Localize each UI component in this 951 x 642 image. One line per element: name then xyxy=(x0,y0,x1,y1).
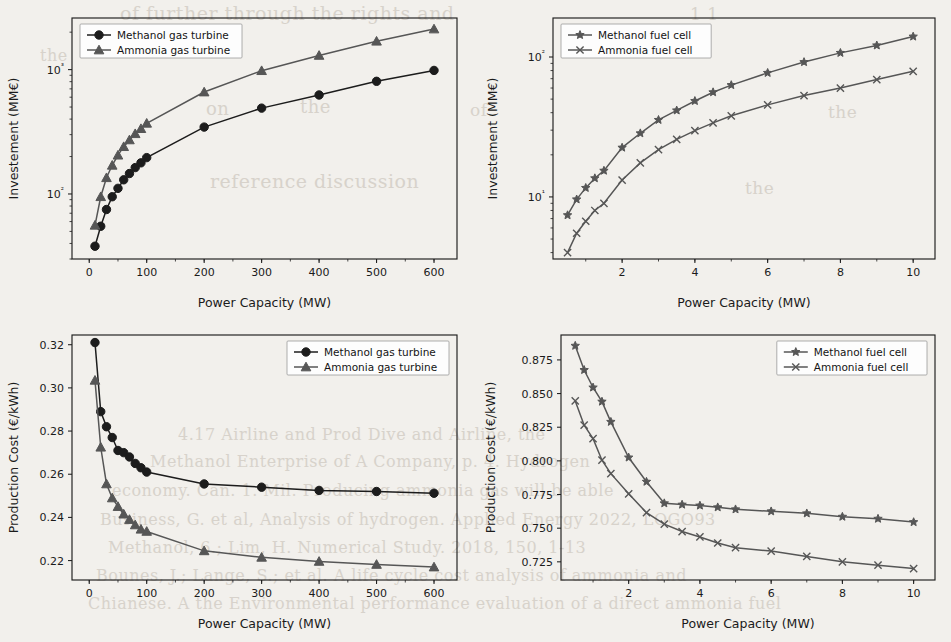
y-tick-label: 0.725 xyxy=(522,556,554,569)
y-tick-label: 0.28 xyxy=(40,425,65,438)
x-tick-label: 400 xyxy=(309,587,330,600)
legend-entry-label: Methanol fuel cell xyxy=(598,29,691,41)
chart-legend[interactable]: Methanol fuel cellAmmonia fuel cell xyxy=(777,341,927,375)
y-tick-label: 0.850 xyxy=(522,388,554,401)
x-tick-label: 10 xyxy=(907,587,921,600)
y-axis-label: Production Cost (€/kWh) xyxy=(483,382,498,534)
chart-investment-fuel-cell: 24681010¹10²Power Capacity (MW)Investeme… xyxy=(475,0,951,321)
y-tick-label: 10² xyxy=(528,49,545,64)
x-tick-label: 4 xyxy=(696,587,703,600)
x-tick-label: 6 xyxy=(768,587,775,600)
x-tick-label: 400 xyxy=(309,266,330,279)
x-tick-label: 0 xyxy=(86,266,93,279)
x-tick-label: 8 xyxy=(839,587,846,600)
y-tick-label: 10¹ xyxy=(528,189,545,204)
x-tick-label: 6 xyxy=(764,266,771,279)
x-tick-label: 0 xyxy=(86,587,93,600)
x-tick-label: 100 xyxy=(136,587,157,600)
x-tick-label: 600 xyxy=(424,587,445,600)
y-axis-label: Production Cost (€/kWh) xyxy=(6,382,21,534)
x-tick-label: 2 xyxy=(625,587,632,600)
series-methanol-gas-turbine xyxy=(91,66,438,250)
x-axis-label: Power Capacity (MW) xyxy=(677,295,810,310)
x-tick-label: 300 xyxy=(251,266,272,279)
legend-entry-label: Ammonia fuel cell xyxy=(814,361,909,373)
x-tick-label: 500 xyxy=(366,587,387,600)
x-tick-label: 200 xyxy=(194,266,215,279)
chart-legend[interactable]: Methanol gas turbineAmmonia gas turbine xyxy=(287,341,449,375)
y-tick-label: 10³ xyxy=(47,62,64,77)
x-axis-label: Power Capacity (MW) xyxy=(198,295,331,310)
x-tick-label: 2 xyxy=(619,266,626,279)
y-axis-label: Investement (MM€) xyxy=(6,78,21,200)
legend-entry-label: Ammonia gas turbine xyxy=(117,44,230,56)
y-tick-label: 0.26 xyxy=(40,468,65,481)
y-tick-label: 0.800 xyxy=(522,455,554,468)
x-tick-label: 200 xyxy=(194,587,215,600)
y-tick-label: 10² xyxy=(47,186,64,201)
panel-production-cost-gas-turbine: 01002003004005006000.220.240.260.280.300… xyxy=(0,321,475,642)
legend-entry-label: Methanol gas turbine xyxy=(324,346,436,358)
y-axis-label: Investement (MM€) xyxy=(485,78,500,200)
panel-production-cost-fuel-cell: 2468100.7250.7500.7750.8000.8250.8500.87… xyxy=(475,321,951,642)
y-tick-label: 0.750 xyxy=(522,522,554,535)
x-axis-label: Power Capacity (MW) xyxy=(681,616,814,631)
x-tick-label: 100 xyxy=(136,266,157,279)
chart-legend[interactable]: Methanol fuel cellAmmonia fuel cell xyxy=(561,24,711,58)
legend-entry-label: Methanol gas turbine xyxy=(117,29,229,41)
y-tick-label: 0.875 xyxy=(522,354,554,367)
panel-investment-gas-turbine: 010020030040050060010²10³Power Capacity … xyxy=(0,0,475,321)
x-tick-label: 4 xyxy=(691,266,698,279)
series-ammonia-fuel-cell xyxy=(564,68,917,256)
legend-entry-label: Methanol fuel cell xyxy=(814,346,907,358)
legend-entry-label: Ammonia fuel cell xyxy=(598,44,693,56)
x-tick-label: 8 xyxy=(837,266,844,279)
series-methanol-fuel-cell xyxy=(563,32,917,219)
x-axis-label: Power Capacity (MW) xyxy=(198,616,331,631)
x-tick-label: 10 xyxy=(906,266,920,279)
y-tick-label: 0.32 xyxy=(40,339,65,352)
panel-investment-fuel-cell: 24681010¹10²Power Capacity (MW)Investeme… xyxy=(475,0,951,321)
legend-entry-label: Ammonia gas turbine xyxy=(324,361,437,373)
x-tick-label: 300 xyxy=(251,587,272,600)
chart-investment-gas-turbine: 010020030040050060010²10³Power Capacity … xyxy=(0,0,475,321)
x-tick-label: 500 xyxy=(366,266,387,279)
x-tick-label: 600 xyxy=(424,266,445,279)
y-tick-label: 0.24 xyxy=(40,511,65,524)
chart-production-cost-fuel-cell: 2468100.7250.7500.7750.8000.8250.8500.87… xyxy=(475,321,951,642)
y-tick-label: 0.22 xyxy=(40,555,65,568)
chart-legend[interactable]: Methanol gas turbineAmmonia gas turbine xyxy=(80,24,242,58)
series-ammonia-fuel-cell xyxy=(572,397,918,572)
y-tick-label: 0.825 xyxy=(522,421,554,434)
figure-panel-grid: 010020030040050060010²10³Power Capacity … xyxy=(0,0,951,642)
chart-production-cost-gas-turbine: 01002003004005006000.220.240.260.280.300… xyxy=(0,321,475,642)
y-tick-label: 0.775 xyxy=(522,489,554,502)
y-tick-label: 0.30 xyxy=(40,382,65,395)
